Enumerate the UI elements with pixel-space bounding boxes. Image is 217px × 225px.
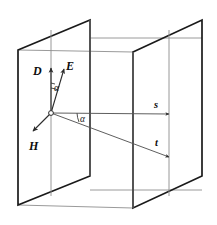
figure-container: D E H s t α α (0, 0, 217, 225)
vector-origin (49, 111, 54, 116)
vector-s-label: s (153, 99, 158, 110)
vector-E-label: E (65, 59, 74, 73)
vector-diagram: D E H s t α α (0, 0, 217, 225)
vector-D-label: D (32, 64, 42, 78)
vector-H-label: H (28, 139, 39, 153)
figure-background (0, 0, 217, 225)
